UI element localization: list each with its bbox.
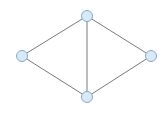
- edge-right-bottom: [87, 56, 151, 97]
- node-bottom: [82, 92, 93, 103]
- node-left: [17, 51, 28, 62]
- edge-left-bottom: [22, 56, 87, 97]
- graph-diagram: [0, 0, 166, 114]
- edge-layer: [22, 16, 151, 97]
- edge-top-left: [22, 16, 87, 56]
- edge-top-right: [87, 16, 151, 56]
- node-top: [82, 11, 93, 22]
- node-right: [146, 51, 157, 62]
